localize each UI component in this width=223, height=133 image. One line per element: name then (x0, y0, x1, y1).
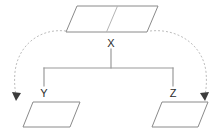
left-curved-arrow (12, 31, 66, 101)
node-x-label: X (107, 37, 115, 49)
node-z[interactable]: Z (152, 87, 208, 127)
node-x[interactable]: X (66, 6, 158, 49)
node-z-label: Z (170, 87, 177, 99)
right-arrow-head (200, 92, 209, 101)
node-x-divider (107, 6, 118, 32)
node-y[interactable]: Y (23, 87, 80, 127)
right-curve-path (150, 31, 206, 95)
left-curve-path (15, 31, 66, 95)
diagram-canvas: X Y Z (0, 0, 223, 133)
node-y-label: Y (40, 87, 48, 99)
diagram-svg: X Y Z (0, 0, 223, 133)
left-arrow-head (12, 92, 21, 101)
node-z-parallelogram[interactable] (152, 102, 208, 127)
tree-connectors (44, 49, 173, 86)
node-y-parallelogram[interactable] (23, 102, 80, 127)
right-curved-arrow (150, 31, 209, 101)
